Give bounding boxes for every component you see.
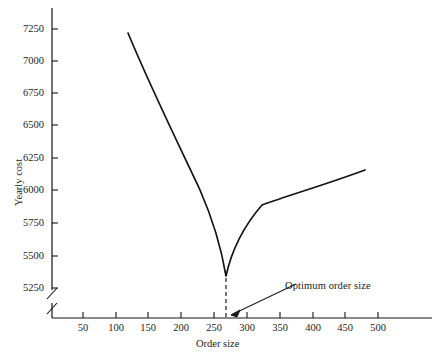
y-tick-label-7000: 7000 <box>2 56 44 67</box>
y-tick-label-5750: 5750 <box>2 218 44 229</box>
optimum-order-size-annotation: Optimum order size <box>285 281 371 292</box>
y-tick-label-7250: 7250 <box>2 24 44 35</box>
chart-canvas <box>0 0 439 361</box>
y-tick-label-5250: 5250 <box>2 283 44 294</box>
x-tick-label-500: 500 <box>358 323 398 334</box>
y-tick-label-6750: 6750 <box>2 88 44 99</box>
y-tick-label-6500: 6500 <box>2 120 44 131</box>
y-axis-ticks <box>52 29 58 288</box>
x-axis-title: Order size <box>196 339 239 350</box>
yearly-cost-curve <box>128 33 365 276</box>
eoq-cost-chart: 7250 7000 6750 6500 6250 6000 5750 5500 … <box>0 0 439 361</box>
y-tick-label-5500: 5500 <box>2 251 44 262</box>
y-axis-title: Yearly cost <box>14 159 25 206</box>
